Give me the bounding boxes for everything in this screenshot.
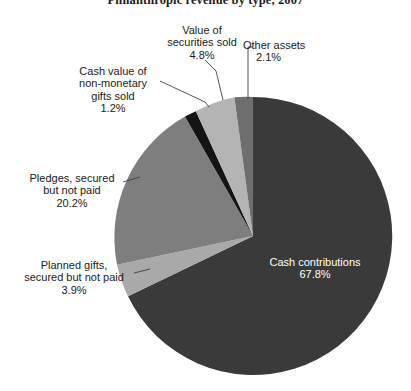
slice-label-cash-nonmonetary-line1: Cash value of — [58, 65, 168, 77]
slice-label-cash-nonmonetary: Cash value of non-monetary gifts sold 1.… — [58, 65, 168, 114]
slice-value-planned-gifts: 3.9% — [4, 284, 144, 296]
slice-value-cash-nonmonetary: 1.2% — [58, 102, 168, 114]
slice-label-pledges-line1: Pledges, secured — [10, 172, 134, 184]
slice-value-value-securities: 4.8% — [155, 49, 249, 61]
slice-value-other-assets: 2.1% — [243, 51, 343, 63]
slice-label-value-securities-line1: Value of — [155, 24, 249, 36]
slice-label-cash-nonmonetary-line2: non-monetary — [58, 77, 168, 89]
slice-label-other-assets: Other assets 2.1% — [243, 39, 343, 64]
slice-label-other-assets-line1: Other assets — [243, 39, 343, 51]
slice-label-pledges-line2: but not paid — [10, 184, 134, 196]
slice-value-cash-contributions: 67.8% — [259, 268, 371, 280]
slice-label-planned-gifts-line2: secured but not paid — [4, 271, 144, 283]
slice-label-value-securities: Value of securities sold 4.8% — [155, 24, 249, 61]
slice-label-planned-gifts-line1: Planned gifts, — [4, 259, 144, 271]
slice-label-cash-nonmonetary-line3: gifts sold — [58, 90, 168, 102]
pie-slices — [114, 97, 392, 375]
slice-label-planned-gifts: Planned gifts, secured but not paid 3.9% — [4, 259, 144, 296]
slice-label-cash-contributions-line1: Cash contributions — [259, 256, 371, 268]
slice-label-cash-contributions: Cash contributions 67.8% — [259, 256, 371, 281]
leader-line-value-securities — [205, 60, 223, 100]
slice-label-value-securities-line2: securities sold — [155, 36, 249, 48]
slice-label-pledges: Pledges, secured but not paid 20.2% — [10, 172, 134, 209]
chart-page: Philanthropic revenue by type, 2007 Valu… — [0, 0, 411, 391]
slice-value-pledges: 20.2% — [10, 197, 134, 209]
